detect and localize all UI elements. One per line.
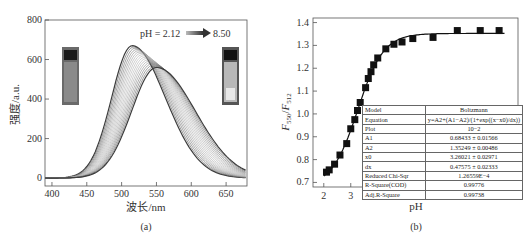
fit-table-row: A21.35249 ± 0.00486 xyxy=(363,143,523,152)
fit-param-name: dx xyxy=(363,162,426,171)
data-point-marker xyxy=(374,54,381,61)
fit-param-name: R-Square(COD) xyxy=(363,181,426,190)
y-tick-label: 600 xyxy=(27,54,42,65)
y-tick-label: 1.0 xyxy=(297,108,310,119)
y-tick-label: 400 xyxy=(27,93,42,104)
y-tick-label: 0.9 xyxy=(297,131,310,142)
data-point-marker xyxy=(430,34,437,41)
x-tick-label: 450 xyxy=(79,188,94,199)
y-tick-label: 1.3 xyxy=(297,39,310,50)
cuvette-image-high-ph xyxy=(222,47,239,105)
fit-param-value: 0.68433 ± 0.01566 xyxy=(425,134,522,143)
fit-param-name: x0 xyxy=(363,152,426,161)
x-tick-label: 600 xyxy=(184,188,199,199)
fit-table-row: A10.68433 ± 0.01566 xyxy=(363,134,523,143)
fit-param-name: Plot xyxy=(363,124,426,133)
data-point-marker xyxy=(477,27,484,34)
data-point-marker xyxy=(367,68,374,75)
y-tick-label: 0.8 xyxy=(297,154,310,165)
data-point-marker xyxy=(336,152,343,159)
panel-b-y-axis-label: F550/F512 xyxy=(279,93,293,132)
y-tick-label: 800 xyxy=(27,14,42,25)
data-point-marker xyxy=(382,45,389,52)
panel-a-y-axis-label: 强度/a.u. xyxy=(8,84,21,125)
cuvette-image-low-ph xyxy=(62,47,79,105)
y-tick-label: 1.4 xyxy=(297,17,310,28)
fit-param-value: y=A2+(A1−A2)/(1+exp((x−x0)/dx)) xyxy=(425,115,522,124)
fit-param-value: 1.35249 ± 0.00486 xyxy=(425,143,522,152)
fit-table-row: x03.26021 ± 0.02971 xyxy=(363,152,523,161)
fit-table-row: R-Square(COD)0.99776 xyxy=(363,181,523,190)
data-point-marker xyxy=(399,38,406,45)
fit-table-row: ModelBoltzmann xyxy=(363,106,523,115)
panel-b-x-axis-label: pH xyxy=(409,200,423,212)
fit-param-value: 3.26021 ± 0.02971 xyxy=(425,152,522,161)
x-tick-label: 3 xyxy=(348,190,353,201)
fit-table-row: Adj.R-Square0.99738 xyxy=(363,190,523,199)
fit-param-value: 10−2 xyxy=(425,124,522,133)
x-tick-label: 400 xyxy=(44,188,59,199)
panel-a-x-axis-label: 波长/nm xyxy=(126,201,166,213)
data-point-marker xyxy=(390,41,397,48)
y-tick-label: 0.7 xyxy=(297,176,310,187)
fit-param-name: Reduced Chi-Sqr xyxy=(363,171,426,180)
panel-a-spectra: 0200400600800400450500550600650 pH = 2.1… xyxy=(8,14,247,233)
data-point-marker xyxy=(331,161,338,168)
fit-param-name: Model xyxy=(363,106,426,115)
y-tick-label: 1.1 xyxy=(297,85,310,96)
data-point-marker xyxy=(370,61,377,68)
x-tick-label: 650 xyxy=(219,188,234,199)
data-point-marker xyxy=(351,116,358,123)
panel-b-caption: (b) xyxy=(410,221,422,233)
ph-start-label: pH = 2.12 xyxy=(140,28,180,39)
fit-param-value: 0.99738 xyxy=(425,190,522,199)
fit-param-name: A2 xyxy=(363,143,426,152)
fit-table-row: Equationy=A2+(A1−A2)/(1+exp((x−x0)/dx)) xyxy=(363,115,523,124)
fit-table-row: dx0.47575 ± 0.02333 xyxy=(363,162,523,171)
x-tick-label: 500 xyxy=(114,188,129,199)
x-tick-label: 550 xyxy=(149,188,164,199)
fit-param-name: Equation xyxy=(363,115,426,124)
fit-param-value: 0.47575 ± 0.02333 xyxy=(425,162,522,171)
ph-end-label: 8.50 xyxy=(213,28,231,39)
data-point-marker xyxy=(496,27,503,34)
data-point-marker xyxy=(454,27,461,34)
data-point-marker xyxy=(409,35,416,42)
y-tick-label: 200 xyxy=(27,133,42,144)
y-tick-label: 0 xyxy=(37,172,42,183)
panel-a-caption: (a) xyxy=(140,221,151,233)
x-tick-label: 2 xyxy=(321,190,326,201)
data-point-marker xyxy=(343,140,350,147)
fit-parameters-table: ModelBoltzmannEquationy=A2+(A1−A2)/(1+ex… xyxy=(362,105,523,200)
fit-table-row: Plot10−2 xyxy=(363,124,523,133)
fit-param-value: Boltzmann xyxy=(425,106,522,115)
data-point-marker xyxy=(347,125,354,132)
data-point-marker xyxy=(365,75,372,82)
data-point-marker xyxy=(362,84,369,91)
y-tick-label: 1.2 xyxy=(297,62,310,73)
fit-param-name: A1 xyxy=(363,134,426,143)
gradient-arrow-icon xyxy=(186,28,211,38)
data-point-marker xyxy=(354,107,361,114)
fit-param-name: Adj.R-Square xyxy=(363,190,426,199)
fit-param-value: 1.26559E−4 xyxy=(425,171,522,180)
fit-param-value: 0.99776 xyxy=(425,181,522,190)
fit-table-row: Reduced Chi-Sqr1.26559E−4 xyxy=(363,171,523,180)
